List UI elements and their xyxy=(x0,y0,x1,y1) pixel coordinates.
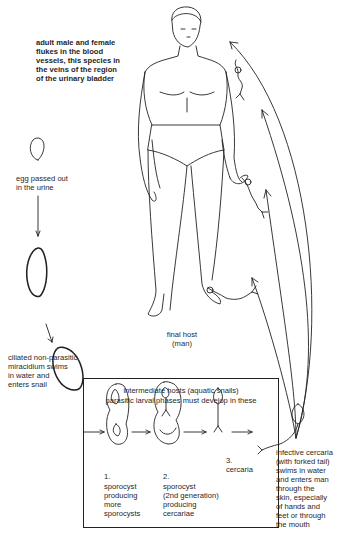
stage-2-label: sporocyst (2nd generation) producing cer… xyxy=(163,482,233,518)
egg-label: egg passed out in the urine xyxy=(16,174,96,192)
stage-2-number: 2. xyxy=(163,472,169,481)
miracidium-label: ciliated non-parasitic miracidium swims … xyxy=(8,353,103,389)
final-host-label: final host (man) xyxy=(152,330,212,348)
intermediate-hosts-subtitle: parasitic larval phases must develop in … xyxy=(86,396,276,405)
intermediate-hosts-title: intermediate hosts (aquatic snails) xyxy=(86,386,276,395)
miracidium-icon xyxy=(27,248,47,297)
adult-fluke-icon xyxy=(235,60,244,100)
adult-flukes-label: adult male and female flukes in the bloo… xyxy=(36,38,146,83)
cercaria-penetrating-foot-icon xyxy=(207,286,258,299)
infective-cercaria-label: infective cercaria (with forked tail) sw… xyxy=(276,448,351,529)
human-figure-icon xyxy=(138,7,248,316)
egg-icon xyxy=(30,138,44,160)
stage-1-label: sporocyst producing more sporocysts xyxy=(104,482,154,518)
stage-1-number: 1. xyxy=(104,472,110,481)
stage-3-label: 3. cercaria xyxy=(226,456,276,474)
